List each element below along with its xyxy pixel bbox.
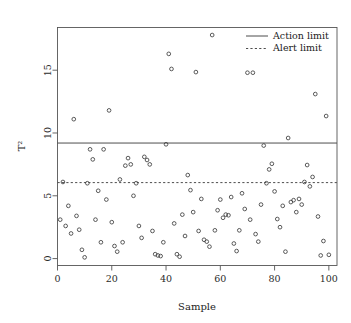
x-axis-title: Sample: [178, 301, 216, 312]
y-tick-label: 5: [42, 193, 53, 199]
x-tick-label: 0: [54, 273, 60, 284]
x-tick-label: 40: [160, 273, 172, 284]
y-tick-label: 10: [42, 127, 53, 139]
x-tick-label: 100: [320, 273, 338, 284]
scatter-plot-canvas: 051015 020406080100 T² Sample Action lim…: [0, 0, 351, 323]
x-tick-label: 80: [269, 273, 281, 284]
legend-label-action-limit: Action limit: [272, 30, 329, 41]
x-tick-label: 20: [106, 273, 118, 284]
y-tick-label: 15: [42, 64, 53, 76]
legend-label-alert-limit: Alert limit: [272, 42, 322, 53]
control-chart-figure: 051015 020406080100 T² Sample Action lim…: [0, 0, 351, 323]
y-axis-title: T²: [16, 141, 27, 152]
x-tick-label: 60: [214, 273, 226, 284]
y-tick-label: 0: [42, 256, 53, 262]
